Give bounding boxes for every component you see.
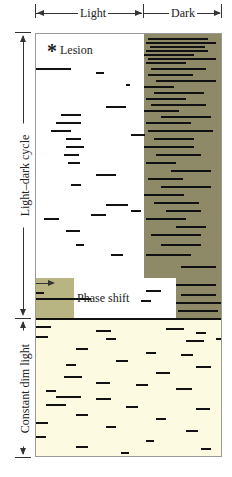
arrow-down-icon xyxy=(20,448,26,455)
constant-dim-light-label: Constant dim light xyxy=(18,331,33,447)
lesion-label: Lesion xyxy=(60,43,93,57)
dark-period-region xyxy=(144,34,222,278)
arrow-down-icon xyxy=(20,309,26,316)
side-mid-tick xyxy=(15,318,31,319)
transition-line xyxy=(36,318,222,320)
phase-shift-arrow-line xyxy=(36,283,50,284)
dark-label: Dark xyxy=(169,6,197,20)
lesion-annotation: * Lesion xyxy=(47,43,93,58)
header-right-tick xyxy=(221,4,222,18)
side-top-tick xyxy=(15,32,31,33)
arrow-right-icon xyxy=(135,10,142,16)
actogram-plot: * Lesion Phase shift xyxy=(35,33,222,457)
header-left-tick xyxy=(35,4,36,18)
side-bottom-tick xyxy=(15,457,31,458)
arrow-up-icon xyxy=(20,35,26,42)
arrow-right-icon xyxy=(214,10,221,16)
header-mid-tick xyxy=(143,4,144,18)
phase-shift-label: Phase shift xyxy=(77,291,129,306)
light-dark-cycle-label: Light–dark cycle xyxy=(18,124,33,228)
arrow-up-icon xyxy=(20,321,26,328)
arrow-left-icon xyxy=(37,10,44,16)
asterisk-icon: * xyxy=(47,40,57,62)
light-label: Light xyxy=(78,6,108,20)
